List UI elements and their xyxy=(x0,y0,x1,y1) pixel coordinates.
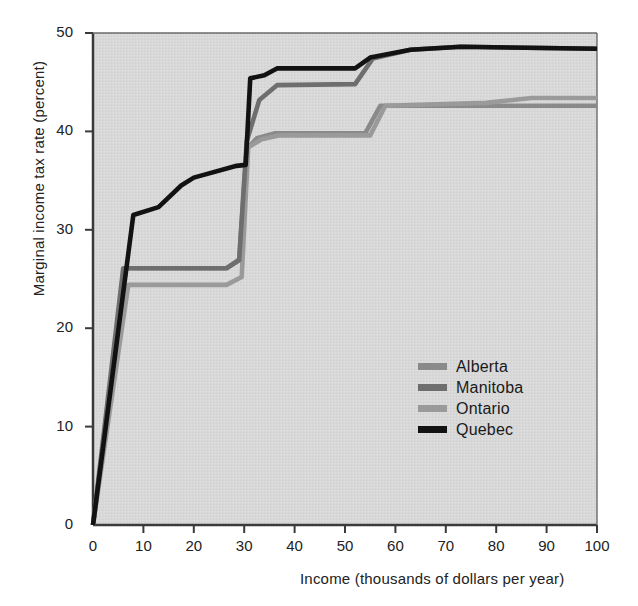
y-tick-label: 0 xyxy=(39,515,73,532)
legend-swatch-alberta xyxy=(418,363,447,370)
x-tick-label: 40 xyxy=(278,537,312,554)
y-tick-label: 40 xyxy=(39,121,73,138)
chart-legend: AlbertaManitobaOntarioQuebec xyxy=(418,356,523,440)
x-tick-label: 90 xyxy=(530,537,564,554)
x-tick-label: 10 xyxy=(126,537,160,554)
x-tick-label: 70 xyxy=(429,537,463,554)
y-tick-label: 30 xyxy=(39,220,73,237)
y-axis-title: Marginal income tax rate (percent) xyxy=(30,49,47,309)
legend-item-alberta: Alberta xyxy=(418,356,523,377)
legend-swatch-quebec xyxy=(418,426,447,433)
x-tick-label: 30 xyxy=(227,537,261,554)
legend-label: Alberta xyxy=(456,358,508,376)
legend-label: Quebec xyxy=(456,421,513,439)
legend-label: Manitoba xyxy=(456,379,523,397)
legend-item-ontario: Ontario xyxy=(418,398,523,419)
x-tick-label: 80 xyxy=(479,537,513,554)
chart-figure: Marginal income tax rate (percent) Incom… xyxy=(0,0,638,606)
legend-swatch-ontario xyxy=(418,405,447,412)
y-tick-label: 10 xyxy=(39,417,73,434)
legend-item-manitoba: Manitoba xyxy=(418,377,523,398)
x-axis-title: Income (thousands of dollars per year) xyxy=(300,570,564,587)
legend-item-quebec: Quebec xyxy=(418,419,523,440)
y-tick-label: 50 xyxy=(39,23,73,40)
legend-label: Ontario xyxy=(456,400,510,418)
x-tick-label: 0 xyxy=(76,537,110,554)
y-tick-label: 20 xyxy=(39,318,73,335)
plot-canvas xyxy=(0,0,638,606)
x-tick-label: 20 xyxy=(177,537,211,554)
legend-swatch-manitoba xyxy=(418,384,447,391)
x-tick-label: 50 xyxy=(328,537,362,554)
x-tick-label: 100 xyxy=(580,537,614,554)
x-tick-label: 60 xyxy=(378,537,412,554)
